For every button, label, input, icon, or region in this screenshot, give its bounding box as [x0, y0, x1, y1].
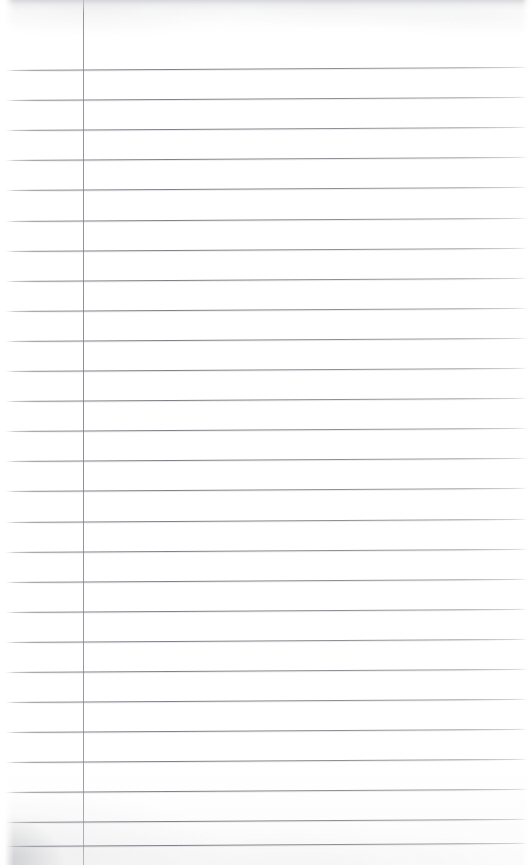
ruled-line [0, 428, 532, 432]
ruled-line [0, 759, 532, 763]
ruled-line [0, 157, 532, 161]
ruled-line [0, 248, 532, 252]
ruled-line [0, 789, 532, 793]
ruled-line [0, 639, 532, 643]
ruled-line [0, 278, 532, 282]
ruled-line [0, 368, 532, 372]
ruled-line [0, 549, 532, 553]
vertical-margin-rule [83, 0, 84, 865]
ruled-line [0, 218, 532, 222]
ruled-line [0, 488, 532, 492]
ruled-line [0, 398, 532, 402]
ruled-line [0, 729, 532, 733]
ruled-line [0, 519, 532, 523]
ruled-line [0, 67, 532, 71]
ruled-line [0, 308, 532, 312]
ruled-line [0, 458, 532, 462]
ruled-line [0, 97, 532, 101]
ruled-line [0, 338, 532, 342]
ruled-line [0, 819, 532, 823]
ruled-line [0, 579, 532, 583]
ruled-line [0, 187, 532, 191]
ruled-line [0, 699, 532, 703]
ruled-line [0, 609, 532, 613]
ruled-line [0, 843, 532, 847]
scanned-page [0, 0, 532, 865]
ruled-line [0, 127, 532, 131]
ruled-line [0, 669, 532, 673]
ruled-lines-layer [0, 0, 532, 865]
